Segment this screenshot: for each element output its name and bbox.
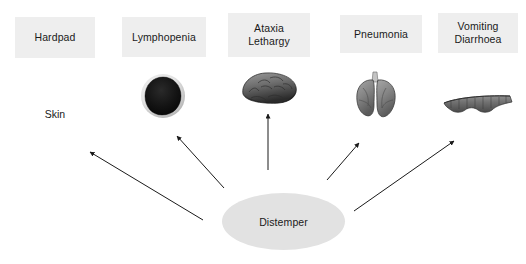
brain-image bbox=[239, 70, 299, 108]
sign-box-lymphopenia: Lymphopenia bbox=[122, 17, 206, 57]
arrow-to-hardpad bbox=[90, 152, 203, 220]
root-node-distemper: Distemper bbox=[222, 193, 345, 250]
sign-box-hardpad: Hardpad bbox=[15, 17, 95, 58]
sign-label-lymphopenia: Lymphopenia bbox=[132, 31, 196, 44]
sign-box-vomiting-diarrhoea: Vomiting Diarrhoea bbox=[438, 13, 518, 53]
organ-label-skin: Skin bbox=[20, 95, 90, 121]
distemper-diagram: Hardpad Lymphopenia Ataxia Lethargy Pneu… bbox=[0, 0, 526, 264]
sign-label-ataxia-lethargy: Ataxia Lethargy bbox=[248, 22, 290, 48]
root-node-label: Distemper bbox=[259, 216, 308, 228]
lymph-node-image bbox=[140, 73, 186, 119]
sign-label-pneumonia: Pneumonia bbox=[354, 28, 408, 41]
sign-label-hardpad: Hardpad bbox=[35, 31, 76, 44]
arrow-to-pneumonia bbox=[327, 143, 359, 180]
organ-label-skin-text: Skin bbox=[45, 108, 65, 120]
sign-label-vomiting-diarrhoea: Vomiting Diarrhoea bbox=[454, 20, 501, 46]
sign-box-pneumonia: Pneumonia bbox=[340, 15, 422, 53]
arrow-to-vomiting bbox=[354, 141, 454, 211]
sign-box-ataxia-lethargy: Ataxia Lethargy bbox=[228, 13, 310, 57]
arrow-to-lymphopenia bbox=[177, 136, 224, 188]
intestine-image bbox=[442, 94, 514, 116]
lungs-image bbox=[353, 70, 399, 122]
